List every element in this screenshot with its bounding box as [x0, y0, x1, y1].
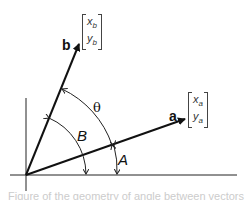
ya-sub: a	[199, 116, 203, 125]
xb-sub: b	[93, 21, 97, 30]
caption-partial: Figure of the geometry of angle between …	[8, 190, 244, 200]
vector-a-arrow	[26, 119, 185, 175]
vector-b-label: b	[62, 38, 71, 52]
yb-sub: b	[93, 38, 97, 47]
vector-a-components: xa ya	[188, 92, 208, 128]
angle-b-label: B	[77, 128, 87, 143]
vector-a-label: a	[169, 109, 177, 123]
vector-angle-diagram	[0, 0, 245, 200]
angle-a-arc	[114, 146, 117, 174]
vector-b-arrow	[26, 44, 79, 175]
angle-a-label: A	[118, 152, 128, 167]
xa-sub: a	[199, 99, 203, 108]
theta-label: θ	[93, 101, 101, 114]
vector-b-components: xb yb	[82, 14, 102, 50]
